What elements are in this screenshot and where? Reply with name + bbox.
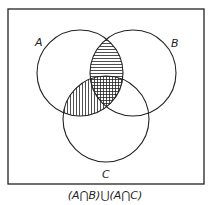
label-b: B: [171, 37, 179, 50]
label-c: C: [102, 168, 110, 181]
label-a: A: [34, 36, 43, 49]
venn-diagram: A B C: [0, 0, 210, 205]
caption: (A⋂B)⋃(A⋂C): [0, 189, 210, 202]
